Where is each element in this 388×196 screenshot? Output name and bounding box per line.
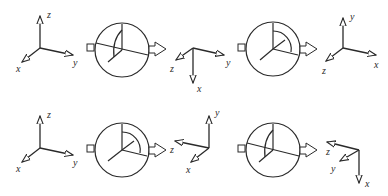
diagonal-line: [259, 150, 273, 162]
y-label: y: [72, 157, 78, 168]
intermediate-frame-row2: y z x: [169, 107, 220, 175]
input-port-icon: [87, 44, 94, 51]
x-label: x: [196, 83, 202, 94]
y-axis-arrow: [40, 148, 73, 155]
x-label: x: [364, 178, 370, 189]
input-port-icon: [87, 145, 94, 152]
input-frame-row2: z x y: [15, 109, 78, 174]
x-axis-arrow: [22, 48, 40, 62]
x-axis-arrow: [191, 148, 209, 162]
x-axis-arrow: [22, 148, 40, 162]
y-label: y: [214, 107, 220, 118]
mid-line: [273, 40, 285, 49]
rotation-stage-row1-1: [87, 23, 166, 77]
mid-line: [122, 141, 134, 150]
output-frame-row2: z y x: [325, 142, 370, 189]
y-label: y: [72, 57, 78, 68]
input-frame-row1: z x y: [15, 9, 78, 74]
output-arrow-icon: [300, 42, 317, 56]
input-port-icon: [238, 145, 245, 152]
x-label: x: [373, 59, 379, 70]
x-axis-arrow: [343, 48, 376, 55]
y-label: y: [349, 11, 355, 22]
z-axis-arrow: [176, 48, 193, 60]
x-label: x: [15, 63, 21, 74]
z-label: z: [169, 144, 174, 155]
horizontal-line: [273, 49, 298, 55]
z-label: z: [169, 63, 174, 74]
y-axis-arrow: [193, 48, 224, 55]
output-arrow-icon: [300, 143, 317, 157]
y-axis-arrow: [340, 150, 359, 161]
z-axis-arrow: [175, 141, 209, 148]
z-label: z: [46, 109, 51, 120]
diagonal-line: [260, 49, 273, 60]
z-label: z: [46, 9, 51, 20]
input-port-icon: [238, 44, 245, 51]
output-arrow-icon: [149, 143, 166, 157]
horizontal-line: [122, 150, 147, 156]
rotation-stage-row2-2: [238, 123, 317, 177]
output-frame-row1: y z x: [321, 11, 379, 76]
z-axis-arrow: [326, 48, 343, 61]
x-label: x: [15, 163, 21, 174]
y-label: y: [330, 163, 336, 174]
z-label: z: [321, 65, 326, 76]
rotation-stage-row1-2: [238, 22, 317, 76]
y-axis-arrow: [40, 48, 73, 55]
row-2: z x y y z x: [15, 107, 370, 189]
z-label: z: [325, 146, 330, 157]
diagonal-line: [108, 150, 122, 161]
x-label: x: [185, 164, 191, 175]
output-arrow-icon: [149, 42, 166, 56]
rotation-diagram: z x y z y x: [0, 0, 388, 196]
diagonal-line: [108, 50, 122, 62]
y-label: y: [225, 57, 231, 68]
intermediate-frame-row1: z y x: [169, 48, 231, 94]
rotation-stage-row2-1: [87, 123, 166, 177]
z-axis-arrow: [327, 142, 359, 150]
row-1: z x y z y x: [15, 9, 379, 94]
